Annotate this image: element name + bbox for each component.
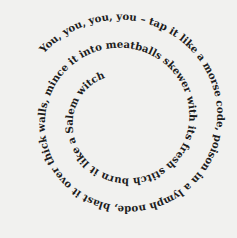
spiral-poem-text: You, you, you, you – tap it like a morse… [35, 10, 228, 216]
spiral-poem: You, you, you, you – tap it like a morse… [0, 0, 237, 238]
spiral-text-path: You, you, you, you – tap it like a morse… [35, 10, 228, 216]
